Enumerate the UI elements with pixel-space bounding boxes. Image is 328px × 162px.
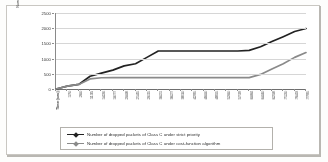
gridline — [56, 74, 306, 75]
x-axis-tick-label: 3627 — [170, 91, 174, 99]
y-axis-tick-mark — [52, 59, 54, 60]
x-axis-tick-mark — [305, 89, 306, 91]
x-axis-tick-mark — [66, 89, 67, 91]
x-axis-tick-mark — [237, 89, 238, 91]
x-axis-tick-mark — [146, 89, 147, 91]
x-axis-tick-mark — [180, 89, 181, 91]
x-axis-tick-label: 7120 — [284, 91, 288, 99]
x-axis-tick-label: 6084 — [250, 91, 254, 99]
x-axis-tick-label: 2615 — [147, 91, 151, 99]
x-axis-tick-mark — [112, 89, 113, 91]
x-axis-tick-mark — [203, 89, 204, 91]
x-axis-tick-mark — [294, 89, 295, 91]
x-axis-tick-label: 1426 — [102, 91, 106, 99]
legend-marker-icon — [67, 132, 84, 138]
y-axis-tick-label: 1500 — [41, 41, 51, 46]
x-axis-tick-labels: Time (sec)170260113514261677200821452615… — [55, 90, 307, 124]
gridline — [56, 28, 306, 29]
y-axis-tick-label: 0 — [49, 87, 51, 92]
legend-label: Number of dropped packets of Class C und… — [87, 141, 220, 146]
x-axis-tick-label: 7643 — [295, 91, 299, 99]
x-axis-tick-label: 1135 — [90, 91, 94, 99]
y-axis-tick-label: 1000 — [41, 56, 51, 61]
x-axis-tick-mark — [191, 89, 192, 91]
x-axis-tick-label: 5260 — [227, 91, 231, 99]
x-axis-tick-label: 7795 — [306, 91, 310, 99]
x-axis-tick-mark — [89, 89, 90, 91]
y-axis-tick-label: 2000 — [41, 26, 51, 31]
x-axis-tick-mark — [100, 89, 101, 91]
y-axis-tick-mark — [52, 43, 54, 44]
x-axis-tick-label: 4855 — [215, 91, 219, 99]
legend-marker-icon — [67, 141, 84, 147]
y-axis-tick-label: 2500 — [41, 11, 51, 16]
x-axis-tick-label: Time (sec) — [56, 91, 60, 110]
x-axis-tick-label: 4295 — [193, 91, 197, 99]
x-axis-tick-mark — [248, 89, 249, 91]
x-axis-tick-label: 2008 — [125, 91, 129, 99]
x-axis-tick-mark — [135, 89, 136, 91]
data-lines — [56, 13, 306, 89]
legend-item-cost-function: Number of dropped packets of Class C und… — [67, 140, 220, 148]
x-axis-tick-mark — [123, 89, 124, 91]
x-axis-tick-label: 2145 — [136, 91, 140, 99]
x-axis-tick-mark — [55, 89, 56, 91]
x-axis-tick-label: 6440 — [261, 91, 265, 99]
x-axis-tick-label: 3021 — [159, 91, 163, 99]
y-axis-tick-label: 500 — [44, 71, 51, 76]
x-axis-tick-label: 260 — [79, 91, 83, 97]
x-axis-tick-label: 6258 — [272, 91, 276, 99]
x-axis-tick-mark — [271, 89, 272, 91]
x-axis-tick-label: 3810 — [181, 91, 185, 99]
y-axis-tick-mark — [52, 74, 54, 75]
y-axis-title: Number of dropped packets — [16, 0, 20, 23]
x-axis-tick-mark — [78, 89, 79, 91]
gridline — [56, 13, 306, 14]
x-axis-tick-mark — [214, 89, 215, 91]
gridline — [56, 43, 306, 44]
x-axis-tick-mark — [157, 89, 158, 91]
x-axis-tick-label: 1677 — [113, 91, 117, 99]
y-axis-tick-mark — [52, 28, 54, 29]
y-axis-tick-mark — [52, 89, 54, 90]
gridline — [56, 59, 306, 60]
y-axis-tick-labels: 05001000150020002500 — [31, 13, 54, 89]
x-axis-tick-mark — [282, 89, 283, 91]
x-axis-tick-mark — [225, 89, 226, 91]
chart-legend: Number of dropped packets of Class C und… — [60, 127, 273, 150]
x-axis-tick-label: 5719 — [238, 91, 242, 99]
y-axis-tick-mark — [52, 13, 54, 14]
chart-figure: Number of dropped packets 05001000150020… — [0, 0, 328, 162]
x-axis-tick-label: 4600 — [204, 91, 208, 99]
x-axis-tick-mark — [169, 89, 170, 91]
legend-label: Number of dropped packets of Class C und… — [87, 132, 200, 137]
axes — [55, 13, 306, 90]
x-axis-tick-label: 170 — [68, 91, 72, 97]
x-axis-tick-mark — [260, 89, 261, 91]
plot-area: Number of dropped packets 05001000150020… — [17, 13, 309, 113]
legend-item-strict-priority: Number of dropped packets of Class C und… — [67, 131, 200, 139]
